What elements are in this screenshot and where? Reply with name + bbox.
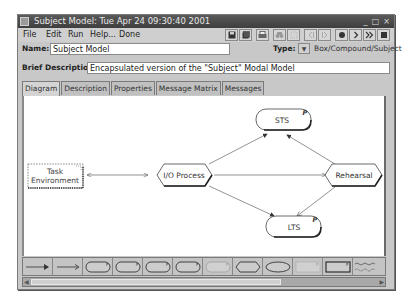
edge-rehearsal-lts[interactable] bbox=[297, 187, 335, 216]
scroll-left-icon[interactable]: ◀ bbox=[24, 278, 29, 286]
scrollbar-thumb[interactable] bbox=[31, 279, 281, 285]
svg-text:P: P bbox=[313, 216, 318, 224]
window-menu-icon[interactable] bbox=[20, 17, 29, 26]
shape-palette: P P P P P P P bbox=[22, 257, 386, 276]
svg-text:I/O Process: I/O Process bbox=[163, 171, 205, 180]
close-icon[interactable]: × bbox=[382, 17, 391, 26]
diagram-canvas[interactable]: Task Environment I/O Process STS P Rehea bbox=[22, 96, 386, 256]
svg-text:Environment: Environment bbox=[31, 176, 79, 185]
tab-bar: Diagram Description Properties Message M… bbox=[22, 81, 265, 96]
wavy-tool-icon[interactable] bbox=[353, 258, 379, 275]
type-value: Box/Compound/Subject bbox=[314, 44, 402, 53]
rounded-box-tool-4-icon[interactable]: P bbox=[173, 258, 203, 275]
app-window: Subject Model: Tue Apr 24 09:30:40 2001 … bbox=[17, 14, 395, 290]
arrow-tool-icon[interactable] bbox=[53, 258, 83, 275]
bidirectional-arrow-tool-icon[interactable] bbox=[23, 258, 53, 275]
edge-rehearsal-sts[interactable] bbox=[287, 135, 335, 164]
tab-message-matrix[interactable]: Message Matrix bbox=[156, 81, 221, 95]
type-label: Type: bbox=[273, 44, 296, 53]
rounded-box-tool-icon[interactable]: P bbox=[83, 258, 113, 275]
svg-text:P: P bbox=[303, 109, 308, 117]
print-icon[interactable] bbox=[256, 29, 269, 41]
svg-text:STS: STS bbox=[275, 116, 289, 125]
rounded-box-tool-2-icon[interactable]: P bbox=[113, 258, 143, 275]
node-sts[interactable]: STS P bbox=[256, 109, 311, 130]
title-bar[interactable]: Subject Model: Tue Apr 24 09:30:40 2001 … bbox=[18, 15, 394, 28]
window-title: Subject Model: Tue Apr 24 09:30:40 2001 bbox=[34, 15, 210, 28]
svg-text:LTS: LTS bbox=[288, 223, 301, 232]
toolbar bbox=[225, 28, 390, 42]
brief-description-label: Brief Description: bbox=[22, 63, 96, 72]
hexagon-tool-icon[interactable] bbox=[233, 258, 263, 275]
menu-help[interactable]: Help... bbox=[90, 28, 116, 42]
name-row: Name: Subject Model Type: ▼ Box/Compound… bbox=[18, 42, 394, 56]
menu-run[interactable]: Run bbox=[68, 28, 83, 42]
save-icon[interactable] bbox=[225, 29, 238, 41]
menu-file[interactable]: File bbox=[23, 28, 36, 42]
name-label: Name: bbox=[22, 44, 49, 53]
stop-icon[interactable] bbox=[377, 29, 390, 41]
edge-io-sts[interactable] bbox=[209, 134, 267, 164]
node-task-environment[interactable]: Task Environment bbox=[28, 164, 83, 188]
type-dropdown-button[interactable]: ▼ bbox=[298, 43, 310, 54]
step-back-icon[interactable] bbox=[304, 29, 317, 41]
play-icon[interactable] bbox=[349, 29, 362, 41]
save-all-icon[interactable] bbox=[239, 29, 252, 41]
tab-messages[interactable]: Messages bbox=[222, 81, 265, 95]
menu-done[interactable]: Done bbox=[119, 28, 140, 42]
node-lts[interactable]: LTS P bbox=[266, 216, 321, 237]
diagram-svg: Task Environment I/O Process STS P Rehea bbox=[24, 96, 384, 256]
svg-text:Rehearsal: Rehearsal bbox=[335, 171, 372, 180]
find-icon[interactable] bbox=[273, 29, 286, 41]
tab-properties[interactable]: Properties bbox=[111, 81, 155, 95]
name-field[interactable]: Subject Model bbox=[50, 43, 230, 55]
step-icon[interactable] bbox=[318, 29, 331, 41]
node-io-process[interactable]: I/O Process bbox=[157, 164, 212, 186]
record-icon[interactable] bbox=[335, 29, 348, 41]
svg-text:Task: Task bbox=[46, 167, 64, 176]
horizontal-scrollbar[interactable]: ◀ ▶ bbox=[22, 277, 386, 287]
rectangle-tool-icon[interactable]: P bbox=[323, 258, 353, 275]
node-rehearsal[interactable]: Rehearsal bbox=[325, 164, 382, 186]
rounded-box-tool-3-icon[interactable]: P bbox=[143, 258, 173, 275]
fast-forward-icon[interactable] bbox=[363, 29, 376, 41]
brief-description-row: Brief Description: Encapsulated version … bbox=[18, 61, 394, 75]
rectangle-light-tool-icon[interactable]: P bbox=[293, 258, 323, 275]
ellipse-tool-icon[interactable] bbox=[263, 258, 293, 275]
select-icon[interactable] bbox=[287, 29, 300, 41]
brief-description-field[interactable]: Encapsulated version of the "Subject" Mo… bbox=[87, 62, 390, 74]
maximize-icon[interactable]: □ bbox=[371, 17, 380, 26]
menu-edit[interactable]: Edit bbox=[46, 28, 62, 42]
edge-io-lts[interactable] bbox=[209, 186, 274, 216]
tab-description[interactable]: Description bbox=[61, 81, 110, 95]
minimize-icon[interactable]: _ bbox=[361, 17, 370, 26]
rounded-box-light-tool-icon[interactable]: P bbox=[203, 258, 233, 275]
tab-diagram[interactable]: Diagram bbox=[22, 81, 60, 96]
scroll-right-icon[interactable]: ▶ bbox=[379, 278, 384, 286]
